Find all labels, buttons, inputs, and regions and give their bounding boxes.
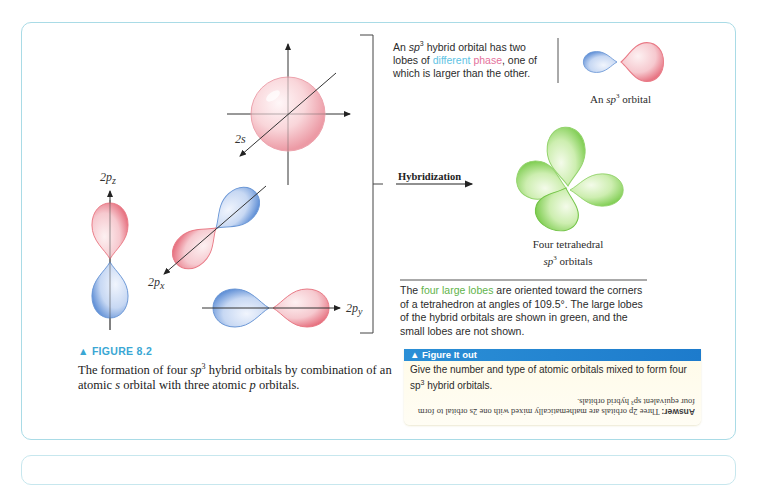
hybridization-label: Hybridization	[398, 171, 461, 182]
2px-orbital	[164, 180, 267, 277]
tetrahedral-orbitals	[512, 126, 623, 236]
lobes-note: The four large lobes are oriented toward…	[400, 284, 650, 338]
figure-it-out-question: Give the number and type of atomic orbit…	[404, 361, 701, 392]
2py-label: 2py	[346, 301, 363, 317]
sp3-orbital-label: An sp3 orbital	[590, 92, 651, 105]
tetrahedral-label: Four tetrahedral sp3 orbitals	[517, 237, 619, 268]
2py-orbital	[202, 289, 340, 327]
phase-note: An sp3 hybrid orbital has two lobes of d…	[393, 37, 553, 80]
figure-tag: ▲ FIGURE 8.2	[78, 345, 152, 357]
figure-it-out-header: ▲ Figure It out	[404, 349, 701, 361]
sp3-orbital	[583, 43, 663, 82]
2pz-orbital	[92, 191, 128, 330]
figure-caption: The formation of four sp3 hybrid orbital…	[78, 359, 398, 393]
figure-it-out-box: ▲ Figure It out Give the number and type…	[404, 349, 701, 425]
bracket	[360, 35, 383, 333]
2s-orbital	[227, 44, 350, 185]
2px-label: 2px	[148, 275, 165, 291]
2s-label: 2s	[235, 132, 246, 146]
figure-it-out-answer-upside-down: Answer: Three 2p orbitals are mathematic…	[410, 397, 695, 417]
2pz-label: 2pz	[100, 170, 116, 186]
